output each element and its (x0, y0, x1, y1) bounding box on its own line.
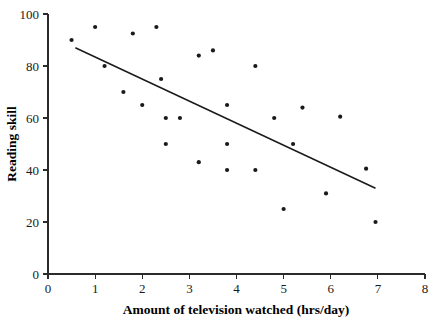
data-point (102, 64, 106, 68)
data-point (324, 191, 328, 195)
data-point (225, 103, 229, 107)
data-point (164, 142, 168, 146)
data-point (131, 31, 135, 35)
x-tick-label: 5 (280, 281, 287, 296)
data-point (93, 25, 97, 29)
x-tick-label: 1 (92, 281, 99, 296)
data-point (373, 220, 377, 224)
data-point (197, 160, 201, 164)
data-point (300, 106, 304, 110)
data-point (69, 38, 73, 42)
x-axis-title: Amount of television watched (hrs/day) (123, 302, 350, 317)
x-tick-label: 2 (139, 281, 146, 296)
data-point (291, 142, 295, 146)
data-point (364, 167, 368, 171)
data-point (225, 168, 229, 172)
data-point (121, 90, 125, 94)
data-point (140, 103, 144, 107)
x-tick-label: 3 (186, 281, 193, 296)
x-tick-label: 4 (233, 281, 240, 296)
regression-trend-line (75, 48, 375, 188)
y-axis-title: Reading skill (4, 106, 19, 182)
axes (48, 14, 425, 274)
y-tick-label: 80 (26, 59, 39, 74)
data-point (178, 116, 182, 120)
y-axis-ticks: 020406080100 (20, 7, 49, 282)
y-tick-label: 40 (26, 163, 39, 178)
x-tick-label: 8 (422, 281, 429, 296)
x-tick-label: 0 (45, 281, 52, 296)
data-point (272, 116, 276, 120)
data-point (159, 77, 163, 81)
y-tick-label: 60 (26, 111, 39, 126)
x-axis-ticks: 012345678 (45, 274, 429, 296)
trend-line-group (75, 48, 375, 188)
data-point (338, 115, 342, 119)
chart-canvas: 020406080100 012345678 Amount of televis… (0, 0, 437, 320)
x-tick-label: 6 (328, 281, 335, 296)
scatter-plot-figure: 020406080100 012345678 Amount of televis… (0, 0, 437, 320)
data-point (211, 48, 215, 52)
data-points-group (69, 25, 377, 224)
y-tick-label: 100 (20, 7, 40, 22)
x-tick-label: 7 (375, 281, 382, 296)
data-point (164, 116, 168, 120)
data-point (197, 54, 201, 58)
data-point (282, 207, 286, 211)
data-point (253, 168, 257, 172)
data-point (253, 64, 257, 68)
data-point (225, 142, 229, 146)
y-tick-label: 20 (26, 215, 39, 230)
data-point (154, 25, 158, 29)
y-tick-label: 0 (33, 267, 40, 282)
